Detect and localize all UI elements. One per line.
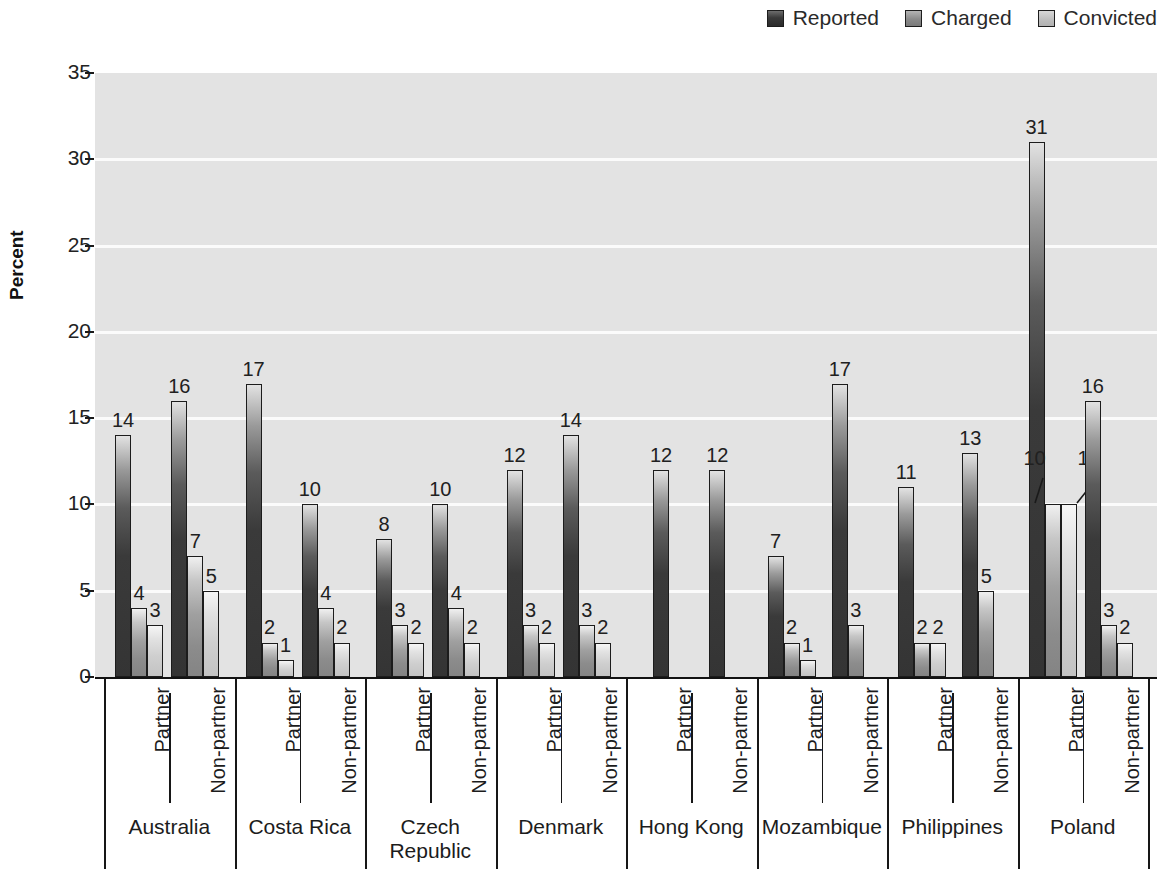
bar-value-label: 5 (981, 565, 992, 588)
bar-reported (832, 384, 848, 677)
bar-charged (579, 625, 595, 677)
group-separator (887, 679, 889, 869)
bar-reported (432, 504, 448, 677)
subgroup-separator (430, 693, 432, 803)
subgroup-separator (1083, 693, 1085, 803)
bar-value-label: 16 (1082, 375, 1104, 398)
bar-value-label: 14 (112, 409, 134, 432)
bar-reported (1029, 142, 1045, 677)
bar-value-label: 7 (190, 530, 201, 553)
legend-label: Charged (931, 6, 1012, 30)
bar-value-label: 4 (320, 582, 331, 605)
bar-chart: ReportedChargedConvicted Percent 1443167… (0, 0, 1169, 893)
x-subgroup-label: Non-partner (338, 687, 361, 794)
bar-convicted (334, 643, 350, 678)
bar-charged (318, 608, 334, 677)
bar-value-label: 3 (525, 599, 536, 622)
bar-charged (784, 643, 800, 678)
bar-value-label: 2 (336, 616, 347, 639)
y-tick-mark (85, 72, 94, 74)
bar-charged (392, 625, 408, 677)
bar-value-label: 3 (395, 599, 406, 622)
y-tick-label: 25 (31, 233, 91, 257)
bar-value-label: 3 (1103, 599, 1114, 622)
bar-value-label: 14 (560, 409, 582, 432)
x-subgroup-label: Non-partner (599, 687, 622, 794)
y-tick-mark (85, 590, 94, 592)
bar-charged (448, 608, 464, 677)
x-group-label: Australia (128, 815, 210, 839)
y-tick-mark (85, 417, 94, 419)
bar-value-label: 2 (597, 616, 608, 639)
x-group-label: Poland (1050, 815, 1115, 839)
bar-value-label: 4 (451, 582, 462, 605)
bar-reported (563, 435, 579, 677)
bar-reported (246, 384, 262, 677)
bar-reported (115, 435, 131, 677)
x-subgroup-label: Non-partner (990, 687, 1013, 794)
bar-convicted (930, 643, 946, 678)
y-tick-mark (85, 245, 94, 247)
chart-legend: ReportedChargedConvicted (767, 6, 1157, 30)
x-group-label: Denmark (518, 815, 603, 839)
bar-value-label: 2 (917, 616, 928, 639)
bar-charged (848, 625, 864, 677)
group-separator (1018, 679, 1020, 869)
bar-charged (131, 608, 147, 677)
bar-charged (187, 556, 203, 677)
y-axis-title: Percent (6, 230, 28, 300)
subgroup-separator (169, 693, 171, 803)
legend-item-charged: Charged (905, 6, 1012, 30)
y-tick-label: 15 (31, 405, 91, 429)
x-group-label: Philippines (901, 815, 1003, 839)
bar-value-label: 3 (850, 599, 861, 622)
legend-label: Reported (793, 6, 879, 30)
bar-value-label: 7 (770, 530, 781, 553)
y-tick-mark (85, 676, 94, 678)
bar-reported (507, 470, 523, 677)
bar-value-label: 31 (1026, 116, 1048, 139)
x-subgroup-label: Non-partner (468, 687, 491, 794)
bar-value-label: 2 (933, 616, 944, 639)
bar-reported (768, 556, 784, 677)
y-tick-label: 30 (31, 146, 91, 170)
bar-convicted (539, 643, 555, 678)
group-separator (365, 679, 367, 869)
bar-charged (523, 625, 539, 677)
square-swatch-dark (767, 10, 784, 27)
bar-value-label: 11 (896, 461, 917, 484)
bar-convicted (278, 660, 294, 677)
y-tick-label: 10 (31, 491, 91, 515)
x-group-label: Hong Kong (639, 815, 744, 839)
bar-reported (1085, 401, 1101, 677)
x-subgroup-label: Non-partner (729, 687, 752, 794)
bar-reported (709, 470, 725, 677)
plot-area: 1443167517211042832104212321432121272117… (95, 73, 1157, 677)
x-group-label: Costa Rica (248, 815, 351, 839)
legend-item-reported: Reported (767, 6, 879, 30)
y-tick-label: 35 (31, 60, 91, 84)
bar-reported (376, 539, 392, 677)
bar-value-label: 12 (650, 444, 672, 467)
bar-value-label: 2 (786, 616, 797, 639)
square-swatch-light (1038, 10, 1055, 27)
group-separator (235, 679, 237, 869)
bar-reported (653, 470, 669, 677)
y-tick-label: 20 (31, 319, 91, 343)
bar-charged (914, 643, 930, 678)
bar-convicted (1061, 504, 1077, 677)
subgroup-separator (561, 693, 563, 803)
y-tick-label: 5 (31, 578, 91, 602)
x-group-label: Mozambique (762, 815, 882, 839)
legend-item-convicted: Convicted (1038, 6, 1157, 30)
bar-value-label: 16 (168, 375, 190, 398)
bar-value-label: 10 (429, 478, 451, 501)
group-separator (626, 679, 628, 869)
bar-value-label: 3 (581, 599, 592, 622)
x-group-label: Czech Republic (389, 815, 471, 862)
y-tick-mark (85, 158, 94, 160)
bar-value-label: 2 (411, 616, 422, 639)
group-separator (496, 679, 498, 869)
y-tick-mark (85, 503, 94, 505)
y-tick-mark (85, 331, 94, 333)
